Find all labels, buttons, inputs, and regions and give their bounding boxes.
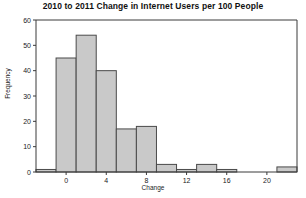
plot-area: 0102030405060048121620: [0, 0, 306, 198]
x-tick-label: 0: [64, 177, 68, 184]
histogram-bar: [56, 58, 76, 172]
histogram-bar: [156, 164, 176, 172]
y-tick-label: 30: [23, 93, 31, 100]
histogram-bar: [96, 71, 116, 172]
histogram-bar: [76, 35, 96, 172]
x-tick-label: 8: [144, 177, 148, 184]
histogram-bar: [197, 164, 217, 172]
x-tick-label: 4: [104, 177, 108, 184]
histogram-bar: [277, 167, 297, 172]
y-tick-label: 60: [23, 17, 31, 24]
x-tick-label: 20: [263, 177, 271, 184]
y-tick-label: 50: [23, 42, 31, 49]
y-tick-label: 40: [23, 67, 31, 74]
y-tick-label: 10: [23, 143, 31, 150]
x-tick-label: 16: [223, 177, 231, 184]
y-tick-label: 20: [23, 118, 31, 125]
histogram-chart: 2010 to 2011 Change in Internet Users pe…: [0, 0, 306, 198]
y-tick-label: 0: [27, 169, 31, 176]
histogram-bar: [116, 129, 136, 172]
histogram-bar: [136, 126, 156, 172]
x-tick-label: 12: [183, 177, 191, 184]
